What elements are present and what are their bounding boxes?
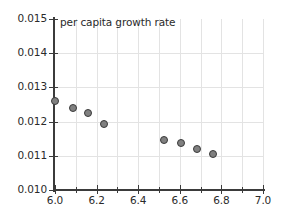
x-tick-label: 6.4: [118, 194, 158, 206]
y-tick-mark: [49, 190, 58, 191]
x-tick-mark: [55, 185, 56, 194]
x-tick-label: 6.6: [160, 194, 200, 206]
gridline-vertical: [180, 19, 181, 190]
y-tick-mark: [49, 87, 58, 88]
x-minor-tick-mark: [159, 187, 160, 193]
data-point: [69, 104, 77, 112]
gridline-horizontal: [55, 87, 263, 88]
gridline-vertical: [138, 19, 139, 190]
y-tick-label: 0.013: [17, 80, 47, 92]
y-tick-mark: [49, 122, 58, 123]
y-tick-mark: [49, 19, 58, 20]
data-point: [177, 139, 185, 147]
x-minor-tick-mark: [76, 187, 77, 193]
gridline-vertical: [263, 19, 264, 190]
y-tick-label: 0.011: [17, 149, 47, 161]
plot-area: [55, 19, 263, 190]
x-tick-label: 6.0: [35, 194, 75, 206]
gridline-vertical: [242, 19, 243, 190]
gridline-vertical: [117, 19, 118, 190]
gridline-horizontal: [55, 122, 263, 123]
x-tick-label: 6.2: [77, 194, 117, 206]
chart-title: per capita growth rate: [60, 16, 175, 28]
gridline-vertical: [221, 19, 222, 190]
x-minor-tick-mark: [201, 187, 202, 193]
x-tick-mark: [138, 185, 139, 194]
y-tick-label: 0.015: [17, 12, 47, 24]
gridline-vertical: [201, 19, 202, 190]
x-minor-tick-mark: [117, 187, 118, 193]
gridline-horizontal: [55, 53, 263, 54]
gridline-horizontal: [55, 156, 263, 157]
y-tick-label: 0.014: [17, 46, 47, 58]
y-tick-mark: [49, 156, 58, 157]
x-tick-mark: [221, 185, 222, 194]
y-tick-label: 0.012: [17, 115, 47, 127]
x-tick-mark: [263, 185, 264, 194]
x-tick-mark: [180, 185, 181, 194]
scatter-plot-figure: 0.0150.0140.0130.0120.0110.0106.06.26.46…: [0, 0, 283, 223]
y-tick-mark: [49, 53, 58, 54]
x-tick-label: 7.0: [243, 194, 283, 206]
x-tick-label: 6.8: [201, 194, 241, 206]
x-minor-tick-mark: [242, 187, 243, 193]
gridline-vertical: [159, 19, 160, 190]
gridline-vertical: [97, 19, 98, 190]
x-tick-mark: [97, 185, 98, 194]
